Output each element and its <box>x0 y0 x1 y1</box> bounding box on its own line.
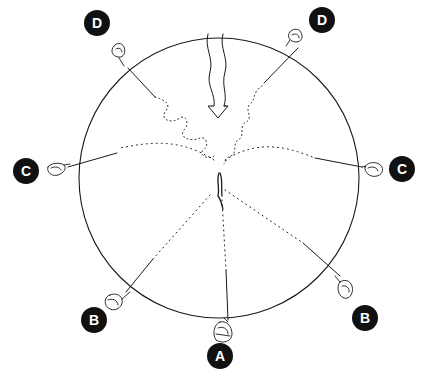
arena-circle <box>79 38 359 318</box>
hand-icon-C-left <box>48 163 70 175</box>
label-badge-B-left: B <box>81 307 107 333</box>
label-badge-A: A <box>207 343 233 369</box>
label-badge-D-right: D <box>309 7 335 33</box>
incoming-wavy-arrow-icon <box>207 34 228 118</box>
hand-icon-D-left <box>112 44 125 67</box>
line-A <box>222 200 228 320</box>
line-C-left <box>68 143 214 167</box>
label-badge-C-left: C <box>13 158 39 184</box>
label-badge-D-left: D <box>84 10 110 36</box>
line-D-right <box>224 48 298 164</box>
line-B-left <box>126 195 210 292</box>
hand-icon-B-left <box>105 292 130 310</box>
line-B-right <box>225 190 340 276</box>
hand-icon-B-right <box>335 276 353 298</box>
line-C-right <box>225 147 362 167</box>
hand-icon-D-right <box>286 29 302 46</box>
hand-icon-A <box>214 318 232 342</box>
label-badge-C-right: C <box>389 156 415 182</box>
center-origin-arrow-icon <box>218 173 223 209</box>
hand-icon-C-right <box>362 163 383 177</box>
label-badge-B-right: B <box>352 305 378 331</box>
